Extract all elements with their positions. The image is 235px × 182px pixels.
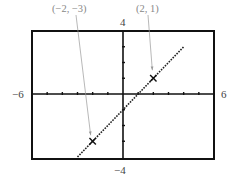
point-label-a: (−2, −3) bbox=[52, 4, 87, 15]
arrowhead-icon bbox=[89, 131, 92, 135]
y-max-label: 4 bbox=[120, 17, 126, 28]
graph-window bbox=[0, 0, 235, 182]
x-marker-icon bbox=[89, 138, 95, 144]
axes bbox=[32, 31, 214, 159]
x-max-label: 6 bbox=[221, 89, 227, 100]
point-label-b: (2, 1) bbox=[136, 4, 159, 15]
x-min-label: −6 bbox=[12, 89, 24, 100]
x-marker-icon bbox=[150, 75, 156, 81]
leader-line bbox=[148, 15, 152, 70]
leader-line bbox=[76, 15, 91, 135]
y-min-label: −4 bbox=[114, 165, 126, 176]
